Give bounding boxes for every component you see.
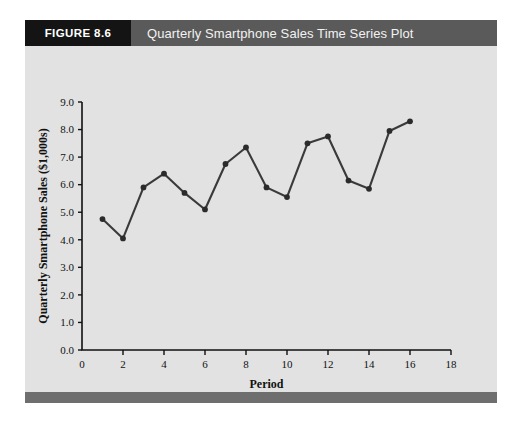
figure-header-bar: FIGURE 8.6 Quarterly Smartphone Sales Ti… xyxy=(25,20,497,46)
svg-text:0: 0 xyxy=(79,358,85,370)
svg-text:14: 14 xyxy=(364,358,376,370)
svg-text:2: 2 xyxy=(120,358,126,370)
svg-text:9.0: 9.0 xyxy=(60,96,74,108)
svg-text:6.0: 6.0 xyxy=(60,178,74,190)
svg-text:3.0: 3.0 xyxy=(60,261,74,273)
svg-text:0.0: 0.0 xyxy=(60,344,74,356)
svg-text:12: 12 xyxy=(323,358,334,370)
time-series-chart: 0.01.02.03.04.05.06.07.08.09.0 024681012… xyxy=(25,46,497,392)
svg-text:4: 4 xyxy=(161,358,167,370)
svg-text:7.0: 7.0 xyxy=(60,151,74,163)
figure-plot-panel: 0.01.02.03.04.05.06.07.08.09.0 024681012… xyxy=(25,46,497,392)
svg-text:8.0: 8.0 xyxy=(60,123,74,135)
figure-number-label: FIGURE 8.6 xyxy=(25,20,131,46)
svg-text:18: 18 xyxy=(446,358,458,370)
figure-block: FIGURE 8.6 Quarterly Smartphone Sales Ti… xyxy=(25,20,497,403)
svg-text:10: 10 xyxy=(282,358,294,370)
y-axis-title: Quarterly Smartphone Sales ($1,000s) xyxy=(36,128,50,323)
svg-text:8: 8 xyxy=(243,358,249,370)
svg-text:16: 16 xyxy=(405,358,417,370)
svg-text:5.0: 5.0 xyxy=(60,206,74,218)
x-axis-title: Period xyxy=(250,377,284,391)
x-axis-ticks: 024681012141618 xyxy=(79,350,457,370)
svg-text:2.0: 2.0 xyxy=(60,289,74,301)
figure-title: Quarterly Smartphone Sales Time Series P… xyxy=(147,20,414,46)
data-series-line xyxy=(103,121,411,238)
svg-text:6: 6 xyxy=(202,358,208,370)
chart-axes xyxy=(82,102,451,350)
y-axis-ticks: 0.01.02.03.04.05.06.07.08.09.0 xyxy=(60,96,82,356)
svg-text:1.0: 1.0 xyxy=(60,316,74,328)
data-point-markers xyxy=(100,118,413,241)
svg-text:4.0: 4.0 xyxy=(60,234,74,246)
figure-footer-bar xyxy=(25,392,497,403)
